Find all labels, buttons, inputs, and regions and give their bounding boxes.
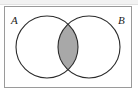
set-b-label: B	[118, 15, 125, 26]
set-a-label: A	[11, 15, 18, 26]
venn-diagram-figure: A B	[0, 0, 138, 91]
